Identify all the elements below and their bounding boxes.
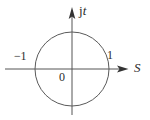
origin-label: 0 <box>59 71 65 83</box>
unit-circle-diagram: −1 1 0 jt S <box>0 0 150 120</box>
real-axis-label: S <box>134 61 141 74</box>
imaginary-axis-label-t: t <box>83 3 87 18</box>
imaginary-axis-label: jt <box>79 4 86 17</box>
x-axis-tick-label-one: 1 <box>107 49 113 61</box>
x-axis-tick-label-negative-one: −1 <box>14 50 26 62</box>
